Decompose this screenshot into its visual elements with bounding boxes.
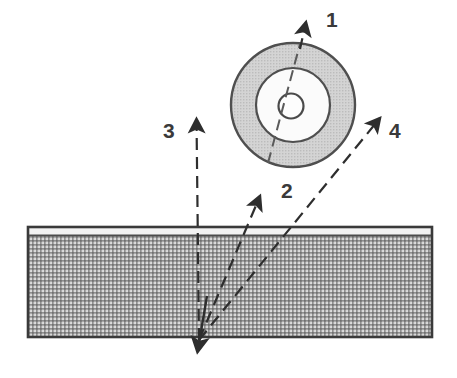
physics-diagram: 1 2 3 4 (0, 0, 457, 378)
disc (231, 43, 355, 167)
net (28, 227, 432, 337)
net-mesh (28, 235, 432, 337)
disc-hub (279, 94, 304, 119)
vector-label-4: 4 (389, 120, 401, 141)
vector-label-1: 1 (326, 9, 338, 30)
vector-label-3: 3 (163, 120, 175, 141)
vector-label-2: 2 (281, 180, 293, 201)
diagram-canvas (0, 0, 457, 378)
